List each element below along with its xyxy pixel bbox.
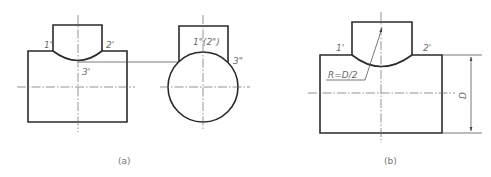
label-3-prime: 3' xyxy=(82,67,90,77)
pipe-intersection-drawing: 1' 2' 3' (a) 1"(2") 3" R=D/2 1' 2' D (b) xyxy=(0,0,491,177)
label-1-prime: 1' xyxy=(44,40,52,50)
label-3-double-prime: 3" xyxy=(233,56,243,66)
caption-b: (b) xyxy=(384,156,397,166)
label-2-prime-b: 2' xyxy=(423,43,431,53)
radius-annotation: R=D/2 xyxy=(328,70,358,80)
label-2-prime: 2' xyxy=(106,40,114,50)
dimension-label-D: D xyxy=(458,92,468,99)
figure-a-front-view: 1' 2' 3' (a) xyxy=(17,15,178,166)
label-1-prime-b: 1' xyxy=(336,43,344,53)
figure-a-side-view: 1"(2") 3" xyxy=(160,15,250,131)
caption-a: (a) xyxy=(118,156,131,166)
intersection-curve xyxy=(53,51,102,61)
intersection-arc-b xyxy=(352,55,412,67)
label-1-2-double-prime: 1"(2") xyxy=(193,37,220,47)
radius-leader xyxy=(365,28,382,80)
branch-pipe-outline-b xyxy=(352,22,412,55)
figure-b: R=D/2 1' 2' D (b) xyxy=(308,12,482,166)
branch-pipe-outline xyxy=(53,25,102,51)
